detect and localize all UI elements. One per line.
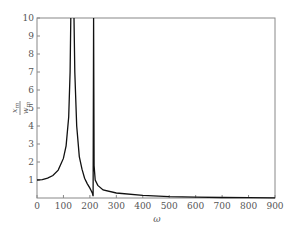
x-tick-label: 600 [187, 201, 204, 211]
response-curve [37, 18, 275, 198]
y-tick-label: 10 [23, 13, 35, 23]
x-tick-label: 900 [266, 201, 283, 211]
x-tick-label: 800 [240, 201, 257, 211]
plot-frame [37, 18, 275, 198]
y-tick-label: 2 [28, 157, 34, 167]
x-tick-label: 500 [161, 201, 178, 211]
x-tick-label: 200 [81, 201, 98, 211]
y-label-numerator: xm [10, 103, 20, 114]
y-label-denominator: wm [21, 101, 31, 114]
plot-area: 0100200300400500600700800900 12345678910… [10, 13, 284, 224]
y-tick-label: 4 [28, 121, 34, 131]
x-tick-label: 400 [134, 201, 151, 211]
x-tick-label: 300 [108, 201, 125, 211]
y-tick-label: 3 [28, 139, 34, 149]
x-tick-label: 0 [34, 201, 40, 211]
y-axis-label: xm wm [10, 101, 31, 115]
y-tick-label: 7 [28, 67, 34, 77]
y-tick-label: 8 [28, 49, 34, 59]
y-tick-label: 9 [28, 31, 34, 41]
x-axis-label: ω [153, 214, 161, 224]
x-tick-label: 100 [55, 201, 72, 211]
y-tick-label: 1 [28, 175, 34, 185]
y-tick-label: 6 [28, 85, 34, 95]
chart: 0100200300400500600700800900 12345678910… [0, 0, 291, 226]
x-tick-label: 700 [214, 201, 231, 211]
